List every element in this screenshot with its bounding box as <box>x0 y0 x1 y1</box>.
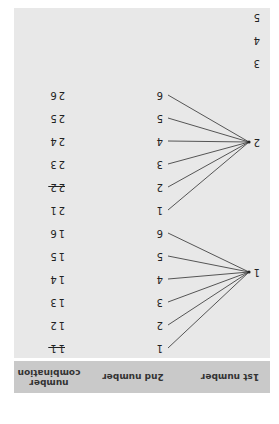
combination: 16 <box>48 228 65 238</box>
first-number-1: 1 <box>254 267 260 277</box>
second-number: 4 <box>157 136 163 146</box>
combination: 26 <box>48 90 65 100</box>
panel-bottom-edge <box>14 5 270 8</box>
second-number: 2 <box>157 182 163 192</box>
combination: 23 <box>48 159 65 169</box>
first-number-4: 4 <box>254 35 260 45</box>
second-number: 5 <box>157 251 163 261</box>
second-number: 1 <box>157 205 163 215</box>
second-number: 3 <box>157 159 163 169</box>
combination: 12 <box>48 320 65 330</box>
second-number: 6 <box>157 90 163 100</box>
combination: 21 <box>48 205 65 215</box>
first-number-5: 5 <box>254 12 260 22</box>
combination: 25 <box>48 113 65 123</box>
second-number: 4 <box>157 274 163 284</box>
second-number: 6 <box>157 228 163 238</box>
combination: 13 <box>48 297 65 307</box>
combination: 15 <box>48 251 65 261</box>
combination-struck: 11 <box>48 343 65 353</box>
combination: 24 <box>48 136 65 146</box>
second-number: 1 <box>157 343 163 353</box>
combination-struck: 22 <box>48 182 65 192</box>
branch-lines <box>0 0 279 424</box>
tree-diagram: 1st number 2nd number number combination… <box>0 0 279 424</box>
first-number-3: 3 <box>254 58 260 68</box>
second-number: 3 <box>157 297 163 307</box>
first-number-2: 2 <box>254 137 260 147</box>
second-number: 5 <box>157 113 163 123</box>
combination: 14 <box>48 274 65 284</box>
second-number: 2 <box>157 320 163 330</box>
